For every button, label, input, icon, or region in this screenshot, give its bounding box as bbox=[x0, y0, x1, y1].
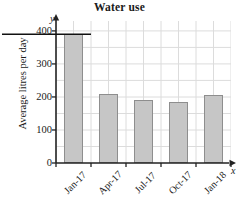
water-use-bar-chart: Water use 0100200300400 Average litres p… bbox=[0, 0, 239, 212]
y-axis-title: Average litres per day bbox=[17, 14, 28, 154]
bar bbox=[99, 94, 118, 163]
x-axis-letter: x bbox=[231, 165, 235, 176]
bar bbox=[169, 102, 188, 163]
bar bbox=[64, 34, 83, 163]
x-axis-tick-labels: Jan-17Apr-17Jul-17Oct-17Jan-18 bbox=[56, 163, 231, 212]
y-axis-letter: y bbox=[50, 13, 54, 24]
bar bbox=[204, 95, 223, 163]
bars-group bbox=[56, 21, 231, 163]
y-tick-label: 0 bbox=[22, 158, 52, 168]
bar bbox=[134, 100, 153, 163]
